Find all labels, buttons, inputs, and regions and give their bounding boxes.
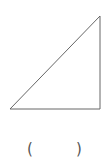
right-triangle-figure [0, 0, 108, 130]
triangle-shape [10, 16, 100, 109]
close-paren: ) [76, 140, 82, 158]
answer-blank[interactable] [36, 140, 74, 158]
answer-blank-group: ( ) [0, 140, 108, 160]
open-paren: ( [27, 140, 33, 158]
